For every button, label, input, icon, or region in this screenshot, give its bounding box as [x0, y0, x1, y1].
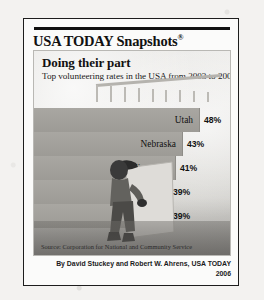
- scaffold-post: [193, 91, 195, 102]
- scaffold-post: [96, 85, 98, 102]
- value-label-minnesota: 41%: [180, 156, 197, 180]
- scaffold-post: [207, 92, 209, 102]
- masthead-brand: USA TODAY Snapshots: [33, 33, 178, 49]
- scaffold-post: [165, 90, 167, 103]
- snapshot-page: USA TODAY Snapshots® Doing their part To…: [0, 0, 264, 300]
- scaffold-post: [138, 88, 140, 102]
- scaffold-post: [179, 90, 181, 102]
- value-label-utah: 48%: [204, 108, 221, 132]
- value-label-nebraska: 43%: [187, 132, 204, 156]
- credit-authors: By David Stuckey and Robert W. Ahrens, U…: [56, 260, 231, 267]
- masthead-title: USA TODAY Snapshots®: [33, 29, 233, 47]
- chart-source: Source: Corporation for National and Com…: [41, 243, 192, 250]
- chart-row: Utah48%: [34, 108, 231, 132]
- credit-year: 2006: [33, 269, 231, 279]
- chart-credit: By David Stuckey and Robert W. Ahrens, U…: [33, 259, 231, 278]
- chart-panel: Doing their part Top volunteering rates …: [33, 50, 231, 256]
- scaffold-post: [124, 87, 126, 102]
- scaffold-post: [152, 89, 154, 102]
- registered-mark-icon: ®: [178, 33, 184, 42]
- category-label-utah: Utah: [175, 108, 193, 132]
- chart-headline: Doing their part: [42, 55, 130, 70]
- scaffold-rail: [96, 84, 221, 102]
- scaffold-illustration: [96, 84, 221, 108]
- scaffold-post: [110, 86, 112, 102]
